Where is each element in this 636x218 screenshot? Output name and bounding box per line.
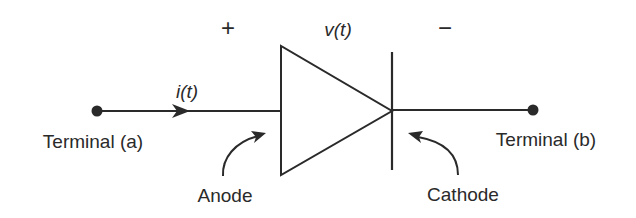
terminal-a-node <box>92 106 103 117</box>
voltage-label: v(t) <box>324 19 351 40</box>
cathode-label: Cathode <box>427 184 499 205</box>
terminal-b-label: Terminal (b) <box>496 129 596 150</box>
anode-pointer-arrow-icon <box>223 131 266 176</box>
anode-label: Anode <box>198 185 253 206</box>
plus-sign: + <box>221 14 235 41</box>
terminal-b-node <box>528 105 539 116</box>
terminal-a-label: Terminal (a) <box>43 131 143 152</box>
current-label: i(t) <box>176 81 198 102</box>
cathode-pointer-arrow-icon <box>408 131 458 175</box>
diode-triangle <box>281 46 392 175</box>
minus-sign: − <box>438 14 452 41</box>
diode-diagram: + v(t) − i(t) Terminal (a) Terminal (b) … <box>0 0 636 218</box>
